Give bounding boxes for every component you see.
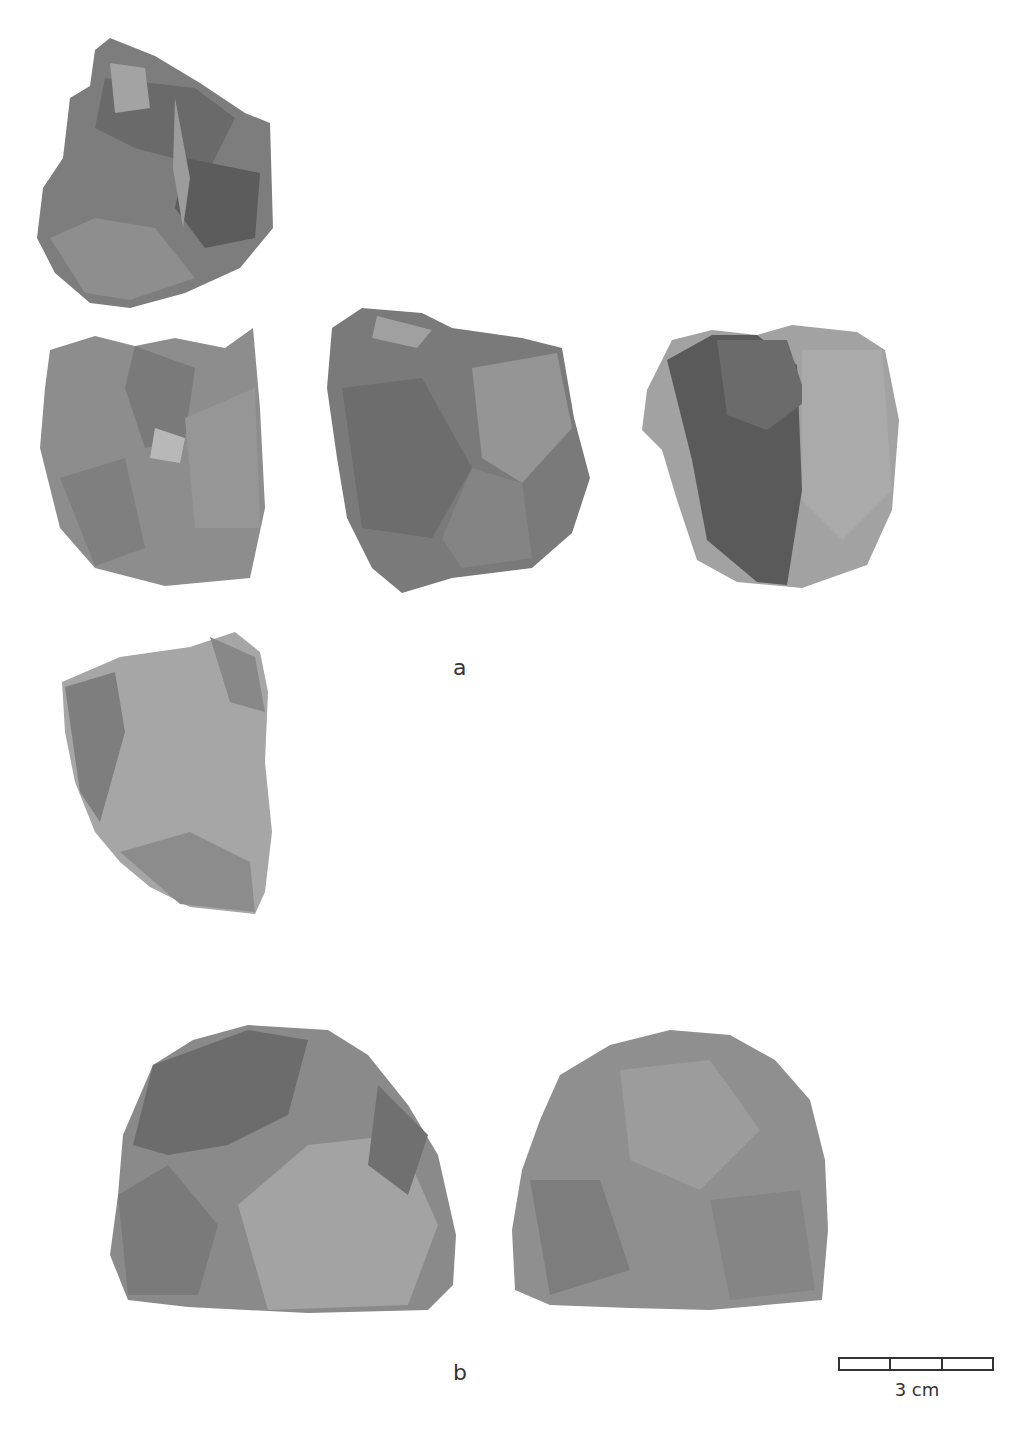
scale-segment [943, 1359, 992, 1369]
scale-bar-graphic [838, 1357, 994, 1371]
stone-a5-image [60, 632, 275, 914]
group-label-b: b [453, 1360, 467, 1385]
scale-bar: 3 cm [838, 1357, 996, 1400]
artifact-a-view-1 [35, 38, 275, 308]
stone-b2-image [510, 1030, 830, 1315]
scale-segment [891, 1359, 942, 1369]
group-label-a: a [453, 655, 466, 680]
stone-a3-image [322, 308, 592, 594]
artifact-a-view-4 [637, 320, 902, 595]
artifact-a-view-2 [35, 328, 275, 588]
artifact-b-view-2 [510, 1030, 830, 1315]
stone-a1-image [35, 38, 275, 308]
stone-a4-image [637, 320, 902, 595]
stone-a2-image [35, 328, 275, 588]
artifact-a-view-5 [60, 632, 275, 914]
scale-segment [840, 1359, 891, 1369]
scale-bar-label: 3 cm [838, 1379, 996, 1400]
artifact-a-view-3 [322, 308, 592, 594]
artifact-b-view-1 [108, 1025, 460, 1313]
stone-b1-image [108, 1025, 460, 1313]
